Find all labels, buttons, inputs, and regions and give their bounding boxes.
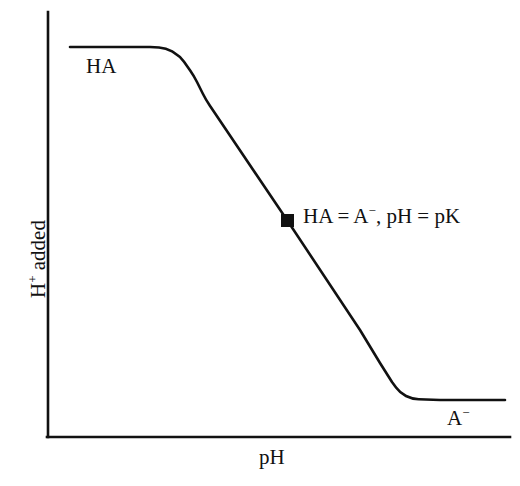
series-label-ha: HA: [86, 56, 116, 77]
y-axis-title: H+ added: [28, 220, 49, 298]
x-axis-title: pH: [259, 447, 285, 468]
midpoint-annotation-part1: HA = A: [303, 204, 369, 228]
superscript-minus-icon: −: [462, 405, 469, 420]
chart-figure: HA A− HA = A−, pH = pK H+ added pH: [0, 0, 520, 486]
y-axis-title-main: H: [26, 283, 50, 298]
superscript-minus-icon: −: [369, 203, 376, 218]
midpoint-annotation: HA = A−, pH = pK: [303, 206, 460, 227]
plot-canvas: [0, 0, 520, 486]
series-label-a-minus-text: A: [447, 406, 462, 430]
midpoint-marker: [279, 212, 296, 229]
series-label-a-minus: A−: [447, 408, 470, 429]
midpoint-annotation-part2: , pH = pK: [376, 204, 460, 228]
y-axis-title-rest: added: [26, 220, 50, 275]
superscript-plus-icon: +: [25, 275, 40, 282]
